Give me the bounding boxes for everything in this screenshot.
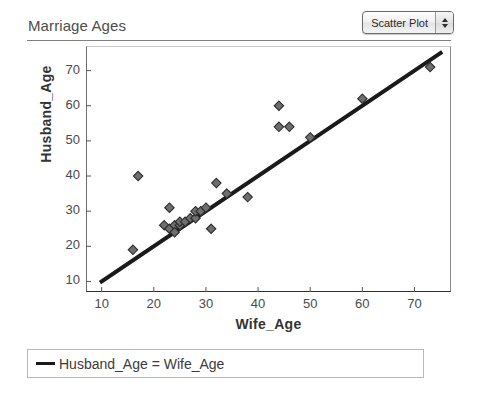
plot-type-value[interactable]: Scatter Plot xyxy=(363,12,435,33)
y-tick-label: 50 xyxy=(46,132,80,147)
x-tick-label: 40 xyxy=(243,296,273,311)
x-tick-label: 60 xyxy=(347,296,377,311)
scatter-plot-widget: Marriage Ages Scatter Plot Husband_Age W… xyxy=(0,0,483,398)
legend-line-swatch xyxy=(36,362,55,365)
x-tick-label: 30 xyxy=(191,296,221,311)
data-point-marker xyxy=(243,192,252,201)
legend-entry-label: Husband_Age = Wife_Age xyxy=(59,356,224,372)
plot-type-stepper[interactable]: Scatter Plot xyxy=(362,11,454,34)
x-tick-label: 70 xyxy=(400,296,430,311)
x-axis-title: Wife_Age xyxy=(86,316,451,332)
y-tick-label: 30 xyxy=(46,202,80,217)
identity-reference-line xyxy=(102,53,441,281)
x-tick-label: 50 xyxy=(295,296,325,311)
data-point-marker xyxy=(274,122,283,131)
x-tick-label: 10 xyxy=(87,296,117,311)
data-point-marker xyxy=(165,203,174,212)
plot-area xyxy=(86,46,451,292)
scatter-canvas xyxy=(86,46,451,292)
y-tick-label: 70 xyxy=(46,62,80,77)
data-point-marker xyxy=(206,224,215,233)
stepper-arrows[interactable] xyxy=(435,12,453,33)
page-title: Marriage Ages xyxy=(28,17,126,34)
data-point-marker xyxy=(212,178,221,187)
data-point-marker xyxy=(128,245,137,254)
chart-header: Marriage Ages Scatter Plot xyxy=(0,0,483,40)
data-point-marker xyxy=(285,122,294,131)
legend: Husband_Age = Wife_Age xyxy=(27,349,424,378)
y-tick-label: 20 xyxy=(46,237,80,252)
y-tick-label: 40 xyxy=(46,167,80,182)
caret-down-icon[interactable] xyxy=(442,24,448,28)
data-point-marker xyxy=(133,171,142,180)
y-tick-label: 10 xyxy=(46,272,80,287)
x-tick-label: 20 xyxy=(139,296,169,311)
y-tick-label: 60 xyxy=(46,97,80,112)
caret-up-icon[interactable] xyxy=(442,18,448,22)
title-divider xyxy=(27,40,451,41)
data-point-marker xyxy=(274,101,283,110)
